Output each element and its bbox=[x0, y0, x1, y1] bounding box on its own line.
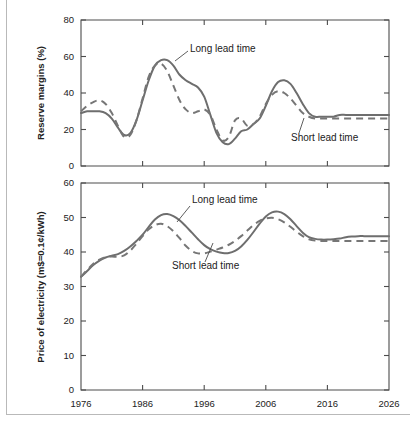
y-tick-label: 30 bbox=[63, 281, 74, 292]
bottom-tick-labels: 0102030405060 bbox=[63, 177, 74, 395]
y-tick-label: 50 bbox=[63, 212, 74, 223]
y-tick-label: 0 bbox=[69, 384, 74, 395]
x-tick-label: 1996 bbox=[194, 398, 215, 409]
y-tick-label: 40 bbox=[63, 246, 74, 257]
annotation-short-lead-time-bottom: Short lead time bbox=[172, 260, 240, 271]
x-tick-label: 2016 bbox=[317, 398, 338, 409]
y-tick-label: 20 bbox=[63, 315, 74, 326]
x-axis-tick-labels: 197619861996200620162026 bbox=[70, 398, 399, 409]
y-tick-label: 10 bbox=[63, 350, 74, 361]
annotation-long-lead-time-bottom: Long lead time bbox=[192, 194, 258, 205]
figure-container: 020406080 Reserve margins (%) Long lead … bbox=[0, 0, 420, 422]
x-tick-label: 2006 bbox=[255, 398, 276, 409]
y-axis-label-price-of-electricity: Price of electricity (m$=0.1¢/kWh) bbox=[35, 211, 46, 362]
y-tick-label: 60 bbox=[63, 177, 74, 188]
x-tick-label: 1986 bbox=[132, 398, 153, 409]
chart-price-of-electricity: 0102030405060 197619861996200620162026 P… bbox=[0, 0, 420, 422]
annotation-leader-long-bottom bbox=[177, 206, 190, 222]
bottom-axis-group bbox=[81, 183, 389, 390]
x-tick-label: 2026 bbox=[378, 398, 399, 409]
x-tick-label: 1976 bbox=[70, 398, 91, 409]
